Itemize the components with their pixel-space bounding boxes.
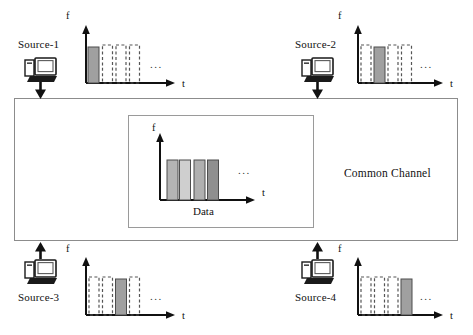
data-chart-y-arrowhead — [156, 133, 164, 142]
data-bar-1 — [167, 160, 178, 200]
source-4-y-arrowhead — [354, 257, 362, 266]
source-1-bar-1-filled — [88, 47, 99, 83]
source-2-bar-1-dashed — [361, 45, 371, 83]
source-1-computer-icon — [24, 57, 58, 84]
source-3-bar-1-dashed — [89, 277, 99, 315]
source-2-y-axis-label: f — [338, 10, 342, 21]
data-bar-4 — [208, 160, 219, 200]
source-2-bar-3-dashed — [388, 45, 398, 83]
source-2-x-axis-label: t — [450, 78, 453, 89]
data-chart — [150, 128, 290, 203]
source-3-bar-3-filled — [116, 279, 127, 315]
source-3-y-axis-label: f — [66, 243, 70, 254]
source-4-ellipsis: ... — [420, 290, 433, 302]
source-4-bar-4-filled — [401, 279, 412, 315]
diagram-canvas: Common Channel f t ... Data Source-1 — [0, 0, 473, 335]
source-1-chart — [76, 20, 206, 92]
source-1-ellipsis: ... — [150, 58, 163, 70]
source-4-bar-2-dashed — [375, 277, 385, 315]
source-3-ellipsis: ... — [150, 290, 163, 302]
source-3-x-arrowhead — [166, 311, 175, 319]
source-4-bar-3-dashed — [388, 277, 398, 315]
source-3-label: Source-3 — [18, 291, 59, 303]
data-panel-label: Data — [193, 205, 214, 217]
source-2-ellipsis: ... — [420, 58, 433, 70]
source-2-connector-arrow — [310, 82, 326, 100]
common-channel-label: Common Channel — [344, 167, 431, 179]
source-3-computer-icon — [24, 259, 58, 286]
source-1-connector-arrow — [33, 82, 49, 100]
source-3-chart — [76, 252, 206, 324]
source-4-y-axis-label: f — [338, 243, 342, 254]
data-chart-x-axis-label: t — [262, 187, 265, 198]
source-2-label: Source-2 — [295, 38, 336, 50]
source-2-bar-4-dashed — [402, 45, 412, 83]
data-chart-ellipsis: ... — [238, 164, 251, 176]
source-1-bar-3-dashed — [116, 45, 126, 83]
source-3-y-arrowhead — [82, 257, 90, 266]
source-3-connector-arrow — [33, 241, 49, 259]
source-1-x-arrowhead — [166, 79, 175, 87]
source-3-x-axis-label: t — [182, 310, 185, 321]
source-1-label: Source-1 — [18, 38, 59, 50]
source-1-y-axis-label: f — [66, 10, 70, 21]
data-chart-x-arrowhead — [246, 196, 255, 204]
source-4-x-axis-label: t — [450, 310, 453, 321]
source-2-bar-2-filled — [374, 47, 385, 83]
source-2-computer-icon — [301, 57, 335, 84]
source-4-chart — [348, 252, 473, 324]
source-4-x-arrowhead — [434, 311, 443, 319]
source-1-x-axis-label: t — [182, 78, 185, 89]
source-1-bar-2-dashed — [103, 45, 113, 83]
data-chart-y-axis-label: f — [152, 122, 156, 133]
source-3-bar-2-dashed — [103, 277, 113, 315]
source-4-label: Source-4 — [295, 291, 336, 303]
source-1-y-arrowhead — [82, 25, 90, 34]
source-3-bar-4-dashed — [130, 277, 140, 315]
data-bar-3 — [194, 160, 205, 200]
source-1-bar-4-dashed — [130, 45, 140, 83]
data-bar-2 — [180, 160, 191, 200]
source-4-computer-icon — [301, 259, 335, 286]
source-4-bar-1-dashed — [361, 277, 371, 315]
source-2-chart — [348, 20, 473, 92]
source-2-x-arrowhead — [434, 79, 443, 87]
source-2-y-arrowhead — [354, 25, 362, 34]
source-4-connector-arrow — [310, 241, 326, 259]
